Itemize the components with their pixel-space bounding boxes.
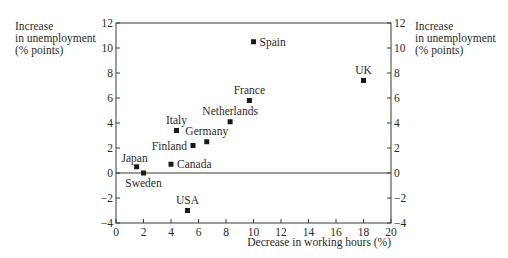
data-points: JapanSwedenCanadaItalyFinlandUSAGermanyN…	[122, 36, 373, 213]
square-marker-icon	[247, 98, 252, 103]
data-point-uk: UK	[355, 64, 372, 84]
y-tick-label-right: 10	[394, 42, 406, 54]
point-label: Spain	[260, 36, 286, 49]
data-point-france: France	[234, 84, 265, 104]
data-point-spain: Spain	[251, 36, 286, 49]
data-point-japan: Japan	[122, 152, 148, 170]
data-point-usa: USA	[176, 194, 200, 214]
data-point-canada: Canada	[169, 158, 212, 170]
point-label: Finland	[152, 140, 187, 152]
data-point-germany: Germany	[185, 125, 228, 145]
point-label: Netherlands	[202, 105, 258, 117]
square-marker-icon	[141, 171, 146, 176]
x-tick-label: 4	[168, 226, 174, 238]
square-marker-icon	[361, 78, 366, 83]
y-tick-label-right: 2	[394, 142, 400, 154]
y-tick-label-left: −2	[101, 192, 113, 204]
point-label: Canada	[177, 158, 211, 170]
y-tick-label-right: −4	[394, 217, 406, 229]
square-marker-icon	[204, 139, 209, 144]
data-point-italy: Italy	[166, 114, 187, 134]
x-axis-title: Decrease in working hours (%)	[247, 236, 391, 249]
square-marker-icon	[191, 143, 196, 148]
square-marker-icon	[251, 39, 256, 44]
axes: 02468101214161820−4−4−2−2002244668810101…	[101, 17, 407, 238]
y-tick-label-left: 2	[107, 142, 113, 154]
y-tick-label-right: 4	[394, 117, 400, 129]
y-tick-label-left: 12	[102, 17, 114, 29]
point-label: USA	[176, 194, 200, 206]
y-tick-label-right: 8	[394, 67, 400, 79]
square-marker-icon	[169, 162, 174, 167]
y-tick-label-right: 6	[394, 92, 400, 104]
y-tick-label-right: −2	[394, 192, 406, 204]
x-tick-label: 0	[113, 226, 119, 238]
y-tick-label-right: 0	[394, 167, 400, 179]
point-label: Germany	[185, 125, 228, 138]
y-tick-label-left: 0	[107, 167, 113, 179]
x-tick-label: 8	[223, 226, 229, 238]
y-tick-label-left: 6	[107, 92, 113, 104]
scatter-chart: 02468101214161820−4−4−2−2002244668810101…	[0, 0, 508, 258]
data-point-finland: Finland	[152, 140, 196, 152]
point-label: France	[234, 84, 265, 96]
point-label: UK	[355, 64, 372, 76]
y-tick-label-left: −4	[101, 217, 113, 229]
x-tick-label: 2	[141, 226, 147, 238]
y-tick-label-left: 10	[102, 42, 114, 54]
point-label: Japan	[122, 152, 148, 165]
data-point-netherlands: Netherlands	[202, 105, 258, 125]
square-marker-icon	[134, 164, 139, 169]
plot-frame	[116, 23, 391, 223]
point-label: Sweden	[125, 177, 162, 189]
x-tick-label: 6	[196, 226, 202, 238]
square-marker-icon	[228, 119, 233, 124]
square-marker-icon	[174, 128, 179, 133]
y-tick-label-left: 8	[107, 67, 113, 79]
point-label: Italy	[166, 114, 187, 127]
y-tick-label-right: 12	[394, 17, 406, 29]
square-marker-icon	[185, 208, 190, 213]
y-tick-label-left: 4	[107, 117, 113, 129]
